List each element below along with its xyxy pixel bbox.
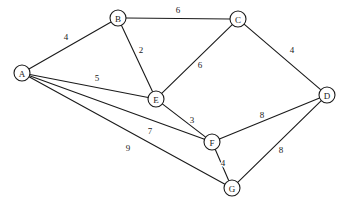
edge-weight-F-G: 4 [221, 158, 226, 168]
graph-diagram: ABCDEFG 445577996622664433884488 [0, 0, 352, 212]
graph-edge-B-E [121, 25, 152, 92]
graph-edge-G-D [238, 101, 322, 183]
node-label-A: A [19, 69, 26, 79]
graph-svg: ABCDEFG 445577996622664433884488 [0, 0, 352, 212]
node-label-G: G [229, 184, 236, 194]
graph-node-C[interactable]: C [230, 11, 246, 27]
edge-weight-F-D: 8 [260, 110, 265, 120]
graph-edge-A-E [30, 75, 148, 98]
graph-edge-C-E [162, 25, 233, 94]
edge-weight-B-C: 6 [176, 5, 181, 15]
edge-weight-A-E: 5 [95, 73, 100, 83]
edge-weight-G-D: 8 [279, 145, 284, 155]
node-label-F: F [209, 138, 214, 148]
edge-weight-A-F: 7 [148, 126, 153, 136]
graph-node-A[interactable]: A [14, 65, 30, 81]
graph-edge-F-D [219, 98, 319, 139]
graph-node-E[interactable]: E [148, 91, 164, 107]
graph-edge-C-D [244, 24, 321, 90]
graph-edge-B-C [126, 18, 230, 19]
node-label-E: E [153, 95, 159, 105]
edge-weight-C-E: 6 [198, 60, 203, 70]
node-label-D: D [324, 91, 331, 101]
node-label-C: C [235, 15, 241, 25]
edges-layer [29, 18, 321, 184]
graph-edge-A-F [30, 76, 205, 140]
edge-weight-B-E: 2 [139, 45, 144, 55]
graph-node-F[interactable]: F [204, 134, 220, 150]
nodes-layer: ABCDEFG [14, 10, 335, 196]
node-label-B: B [115, 14, 121, 24]
graph-edge-A-B [29, 22, 111, 69]
edge-weight-A-G: 9 [126, 143, 131, 153]
edge-weight-E-F: 3 [190, 115, 195, 125]
graph-node-D[interactable]: D [319, 87, 335, 103]
graph-node-G[interactable]: G [224, 180, 240, 196]
edge-weight-A-B: 4 [64, 32, 69, 42]
graph-node-B[interactable]: B [110, 10, 126, 26]
edge-weight-C-D: 4 [290, 45, 295, 55]
